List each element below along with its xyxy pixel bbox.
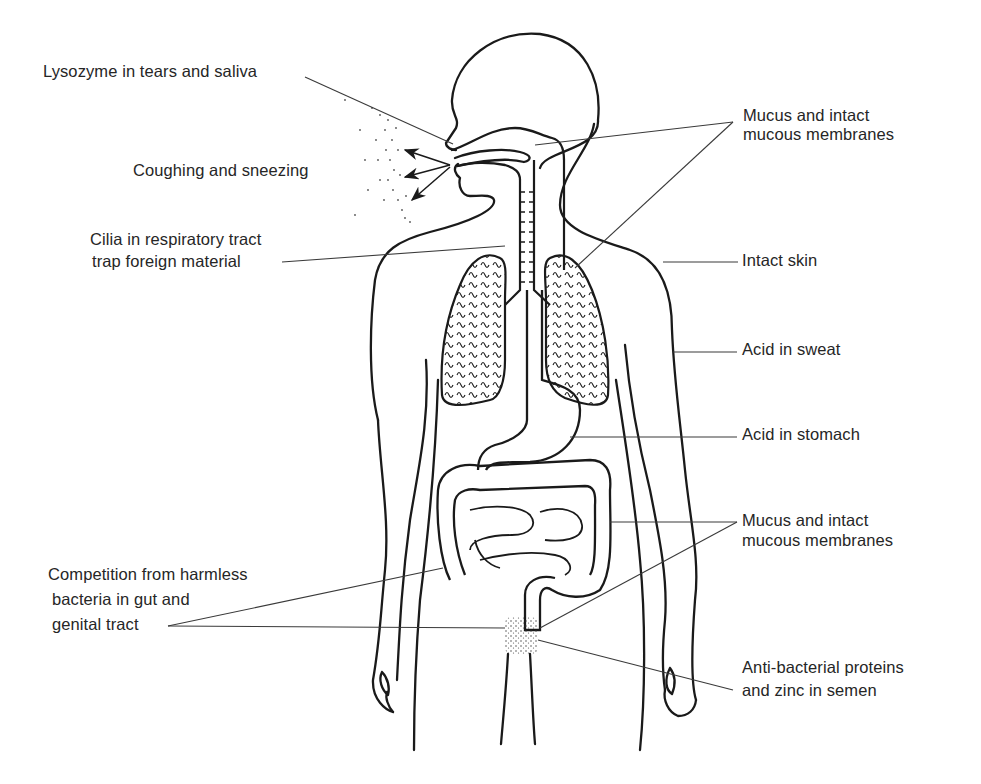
label-lysozyme: Lysozyme in tears and saliva xyxy=(43,62,257,81)
label-mucus-low-line1: Mucus and intact xyxy=(742,511,868,530)
label-cilia-line2: trap foreign material xyxy=(92,252,241,271)
leader-antibacterial xyxy=(538,640,733,690)
lungs xyxy=(442,255,609,405)
right-lung xyxy=(545,255,608,404)
leader-mucus-top-a xyxy=(535,122,733,145)
label-mucus-top-line2: mucous membranes xyxy=(743,125,894,144)
label-competition-line1: Competition from harmless xyxy=(48,565,248,584)
small-intestine xyxy=(470,507,582,575)
cough-spray xyxy=(344,99,411,223)
label-antibacterial-line2: and zinc in semen xyxy=(742,681,877,700)
label-cilia-line1: Cilia in respiratory tract xyxy=(90,230,261,249)
label-acid-stomach: Acid in stomach xyxy=(742,425,860,444)
left-lung xyxy=(442,255,506,405)
prostate-gland xyxy=(505,617,538,654)
leader-competition-b xyxy=(168,626,505,628)
label-mucus-top-line1: Mucus and intact xyxy=(743,106,869,125)
cough-arrows xyxy=(405,150,450,200)
label-acid-sweat: Acid in sweat xyxy=(742,340,841,359)
label-competition-line2: bacteria in gut and xyxy=(52,590,190,609)
label-antibacterial-line1: Anti-bacterial proteins xyxy=(742,658,904,677)
label-mucus-low-line2: mucous membranes xyxy=(742,531,893,550)
label-competition-line3: genital tract xyxy=(52,615,139,634)
label-intact-skin: Intact skin xyxy=(742,251,817,270)
body-defences-diagram: Lysozyme in tears and saliva Coughing an… xyxy=(0,0,981,784)
nasal-cavity xyxy=(452,128,564,180)
leader-lysozyme xyxy=(305,77,453,144)
label-coughing-sneezing: Coughing and sneezing xyxy=(133,161,309,180)
leader-mucus-top-b xyxy=(575,122,733,268)
